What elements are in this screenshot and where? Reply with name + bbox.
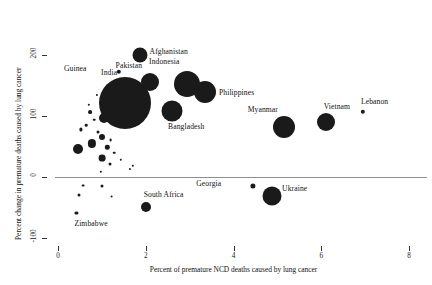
data-point-bubble-unlabeled[interactable] xyxy=(89,110,93,114)
data-point-label: Philippines xyxy=(219,88,254,97)
data-point-bubble[interactable] xyxy=(317,113,335,131)
x-axis-tick-mark xyxy=(146,246,147,251)
data-point-bubble-unlabeled[interactable] xyxy=(110,195,113,198)
y-axis-tick-mark xyxy=(42,177,47,178)
y-axis-tick-mark xyxy=(42,55,47,56)
x-axis-tick-label: 8 xyxy=(407,252,411,260)
x-axis-tick-mark xyxy=(58,246,59,251)
x-axis-title: Percent of premature NCD deaths caused b… xyxy=(150,265,317,274)
data-point-bubble-unlabeled[interactable] xyxy=(73,144,83,154)
data-point-bubble[interactable] xyxy=(141,202,151,212)
data-point-label: Indonesia xyxy=(149,57,179,66)
data-point-label: Pakistan xyxy=(116,61,143,70)
zero-reference-line xyxy=(55,177,427,178)
y-axis-tick-label: 200 xyxy=(30,41,38,65)
x-axis-tick-label: 6 xyxy=(319,252,323,260)
plot-area xyxy=(0,0,432,285)
x-axis-tick-mark xyxy=(409,246,410,251)
data-point-bubble[interactable] xyxy=(132,48,147,63)
data-point-bubble-unlabeled[interactable] xyxy=(78,194,81,197)
data-point-label: Afghanistan xyxy=(150,47,188,56)
data-point-label: Ukraine xyxy=(282,184,307,193)
data-point-bubble[interactable] xyxy=(273,116,295,138)
data-point-bubble[interactable] xyxy=(263,186,282,205)
x-axis-tick-label: 4 xyxy=(232,252,236,260)
data-point-bubble-unlabeled[interactable] xyxy=(99,134,105,140)
data-point-label: Lebanon xyxy=(361,97,388,106)
x-axis-tick-label: 2 xyxy=(144,252,148,260)
data-point-label: Georgia xyxy=(196,179,221,188)
y-axis-tick-mark xyxy=(42,238,47,239)
data-point-bubble-unlabeled[interactable] xyxy=(85,124,88,127)
data-point-label: South Africa xyxy=(144,190,184,199)
y-axis-tick-label: 0 xyxy=(30,163,38,187)
x-axis-tick-label: 0 xyxy=(56,252,60,260)
data-point-bubble-unlabeled[interactable] xyxy=(97,131,100,134)
data-point-bubble-unlabeled[interactable] xyxy=(98,155,105,162)
data-point-bubble-unlabeled[interactable] xyxy=(109,139,112,142)
data-point-bubble-unlabeled[interactable] xyxy=(113,151,116,154)
y-axis-tick-mark xyxy=(42,116,47,117)
data-point-bubble-unlabeled[interactable] xyxy=(93,118,96,121)
y-axis-tick-label: 100 xyxy=(30,102,38,126)
bubble-chart: -1000100200 02468 Percent change in prem… xyxy=(0,0,432,285)
y-axis-tick-label: -100 xyxy=(30,224,38,248)
data-point-bubble[interactable] xyxy=(194,81,216,103)
y-axis-title: Percent change in premature deaths cause… xyxy=(14,68,23,240)
data-point-bubble-unlabeled[interactable] xyxy=(100,184,103,187)
x-axis-tick-mark xyxy=(321,246,322,251)
data-point-label: Bangladesh xyxy=(168,122,204,131)
data-point-bubble[interactable] xyxy=(99,77,151,129)
data-point-label: Guinea xyxy=(64,64,87,73)
data-point-bubble-unlabeled[interactable] xyxy=(82,184,85,187)
data-point-bubble-unlabeled[interactable] xyxy=(108,163,111,166)
x-axis-tick-mark xyxy=(234,246,235,251)
data-point-label: Zimbabwe xyxy=(74,219,107,228)
data-point-label: Vietnam xyxy=(324,102,350,111)
data-point-label: Myanmar xyxy=(248,105,278,114)
data-point-bubble[interactable] xyxy=(162,101,183,122)
data-point-label: India xyxy=(101,68,117,77)
